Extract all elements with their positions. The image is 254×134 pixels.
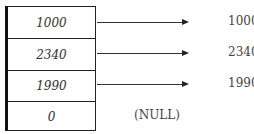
target-value: 1000 bbox=[228, 14, 254, 28]
target-value: 2340 bbox=[228, 45, 254, 59]
array-cell: 2340 bbox=[8, 39, 95, 71]
arrow-icon bbox=[97, 84, 187, 85]
array-cell: 1990 bbox=[8, 70, 95, 102]
arrow-icon bbox=[97, 22, 187, 23]
target-value: 1990 bbox=[228, 76, 254, 90]
array-cell: 1000 bbox=[8, 7, 95, 39]
array-cell: 0 bbox=[8, 101, 95, 132]
arrow-icon bbox=[97, 53, 187, 54]
null-label: (NULL) bbox=[134, 108, 180, 122]
pointer-array: 1000 2340 1990 0 bbox=[5, 6, 96, 131]
